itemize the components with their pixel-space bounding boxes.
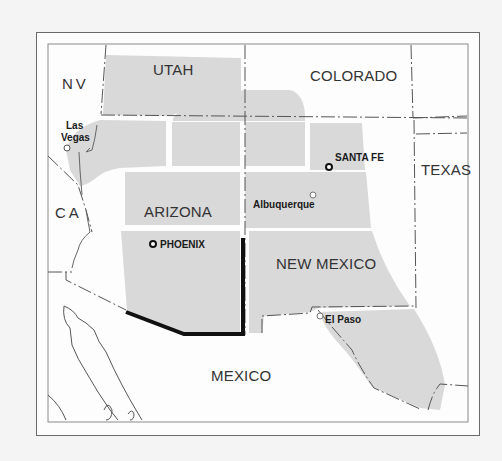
label-colorado: COLORADO <box>310 68 397 83</box>
colorado-south-block <box>245 122 305 166</box>
label-new-mexico: NEW MEXICO <box>276 256 376 271</box>
label-las-vegas-line2: Vegas <box>61 133 90 143</box>
label-las-vegas-line1: Las <box>66 121 83 131</box>
el-paso-marker <box>317 313 323 319</box>
label-santa-fe: SANTA FE <box>335 153 384 163</box>
label-california: CA <box>55 205 82 220</box>
albuquerque-marker <box>310 192 316 198</box>
utah-south-block <box>172 122 240 166</box>
map-graphic <box>0 0 502 461</box>
label-nevada: NV <box>62 76 89 91</box>
label-texas: TEXAS <box>421 162 471 177</box>
label-utah: UTAH <box>153 62 194 77</box>
phoenix-capital-marker <box>150 241 156 247</box>
label-arizona: ARIZONA <box>144 204 212 219</box>
label-albuquerque: Albuquerque <box>253 200 315 210</box>
las-vegas-marker <box>64 145 70 151</box>
label-phoenix: PHOENIX <box>160 240 205 250</box>
label-mexico: MEXICO <box>211 368 271 383</box>
label-el-paso: El Paso <box>325 315 361 325</box>
santa-fe-capital-marker <box>326 164 332 170</box>
